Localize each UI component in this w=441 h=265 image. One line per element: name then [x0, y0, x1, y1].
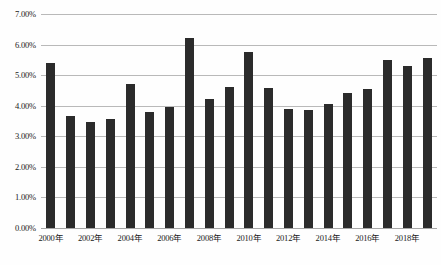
x-tick-label: 2016年 — [355, 231, 380, 243]
x-axis: 2000年2002年2004年2006年2008年2010年2012年2014年… — [41, 231, 437, 251]
y-tick-label: 7.00% — [15, 9, 36, 19]
y-tick-label: 4.00% — [15, 101, 36, 111]
y-tick-label: 2.00% — [15, 162, 36, 172]
bar — [403, 66, 412, 228]
x-tick-label: 2002年 — [78, 231, 103, 243]
bar — [106, 119, 115, 228]
bar — [225, 87, 234, 228]
x-tick-label: 2012年 — [276, 231, 301, 243]
bar — [383, 60, 392, 228]
y-axis: 0.00%1.00%2.00%3.00%4.00%5.00%6.00%7.00% — [0, 0, 41, 265]
bar — [363, 89, 372, 228]
x-tick-label: 2004年 — [118, 231, 143, 243]
x-tick-label: 2000年 — [38, 231, 63, 243]
y-tick-label: 3.00% — [15, 131, 36, 141]
bar — [205, 99, 214, 228]
bar — [423, 58, 432, 228]
bar — [185, 38, 194, 228]
x-tick-label: 2008年 — [197, 231, 222, 243]
plot-area — [41, 14, 437, 228]
x-tick-label: 2018年 — [395, 231, 420, 243]
x-tick-label: 2014年 — [316, 231, 341, 243]
bar — [66, 116, 75, 229]
bar — [264, 88, 273, 228]
x-tick-label: 2010年 — [236, 231, 261, 243]
bar — [46, 63, 55, 228]
y-tick-label: 1.00% — [15, 192, 36, 202]
y-tick-label: 0.00% — [15, 223, 36, 233]
bar — [86, 122, 95, 228]
gridline — [41, 228, 437, 229]
bars-series — [41, 14, 437, 228]
bar — [126, 84, 135, 228]
bar — [284, 109, 293, 228]
y-tick-label: 6.00% — [15, 40, 36, 50]
bar — [324, 104, 333, 228]
bar — [145, 112, 154, 228]
y-tick-label: 5.00% — [15, 70, 36, 80]
bar-chart: 0.00%1.00%2.00%3.00%4.00%5.00%6.00%7.00%… — [0, 0, 441, 265]
bar — [165, 107, 174, 228]
bar — [343, 93, 352, 228]
x-tick-label: 2006年 — [157, 231, 182, 243]
bar — [304, 110, 313, 228]
bar — [244, 52, 253, 228]
